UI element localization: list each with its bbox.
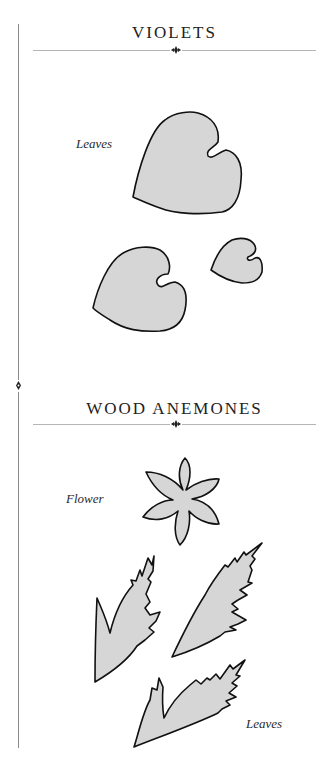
anemone-shapes <box>0 0 328 769</box>
anemone-leaf-bottom-icon <box>134 660 245 747</box>
anemone-leaf-left-icon <box>95 556 160 682</box>
anemone-flower-icon <box>143 458 219 545</box>
anemone-leaf-right-icon <box>172 543 262 657</box>
